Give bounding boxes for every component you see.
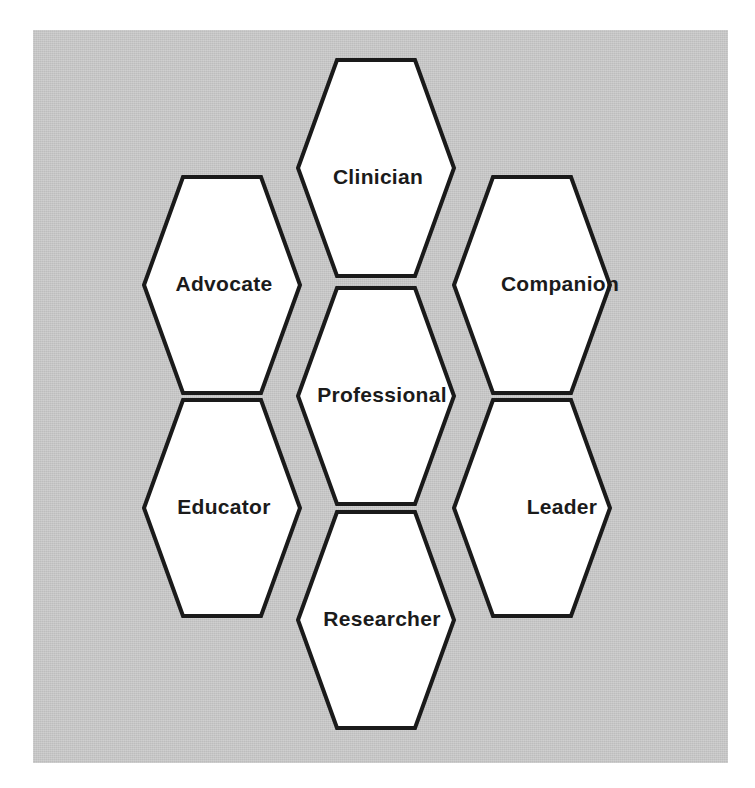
hex-cell-researcher[interactable]: Researcher bbox=[298, 512, 454, 728]
hex-cell-companion[interactable]: Companion bbox=[454, 177, 619, 393]
hex-cell-advocate[interactable]: Advocate bbox=[144, 177, 300, 393]
hex-cell-leader[interactable]: Leader bbox=[454, 400, 610, 616]
hex-label-researcher: Researcher bbox=[323, 607, 440, 630]
honeycomb-grid: Clinician Advocate Companion Professiona… bbox=[0, 0, 755, 788]
hex-cell-clinician[interactable]: Clinician bbox=[298, 60, 454, 276]
hex-label-educator: Educator bbox=[177, 495, 270, 518]
hex-cell-professional[interactable]: Professional bbox=[298, 288, 454, 504]
hex-label-leader: Leader bbox=[527, 495, 598, 518]
honeycomb-figure: Clinician Advocate Companion Professiona… bbox=[0, 0, 755, 788]
hex-cell-educator[interactable]: Educator bbox=[144, 400, 300, 616]
hex-label-advocate: Advocate bbox=[176, 272, 273, 295]
hex-label-companion: Companion bbox=[501, 272, 619, 295]
hex-label-professional: Professional bbox=[317, 383, 447, 406]
hex-label-clinician: Clinician bbox=[333, 165, 423, 188]
